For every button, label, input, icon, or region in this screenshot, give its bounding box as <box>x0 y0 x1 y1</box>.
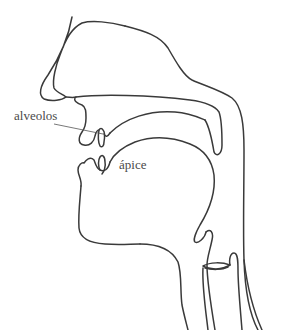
nasal-floor <box>66 95 222 154</box>
arytenoid <box>230 253 242 330</box>
label-alveolos: alveolos <box>14 109 57 122</box>
vocal-tract-diagram: alveolos ápice <box>0 0 284 330</box>
nose-outline <box>41 17 125 100</box>
upper-incisor <box>98 129 104 147</box>
epiglottis <box>206 230 215 330</box>
chin <box>79 186 140 244</box>
neck-front <box>140 244 188 330</box>
alveolos-leader-line <box>54 124 103 134</box>
tongue <box>110 138 214 242</box>
label-apice: ápice <box>119 158 146 171</box>
hard-palate <box>110 112 205 133</box>
upper-lip <box>75 97 99 145</box>
